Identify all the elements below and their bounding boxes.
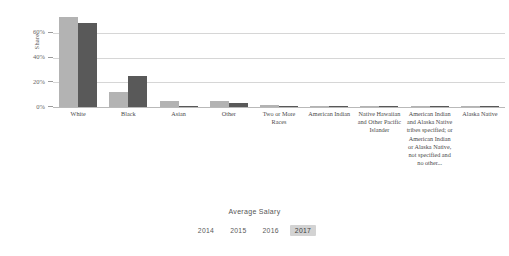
bar[interactable] — [329, 106, 348, 107]
bar-group-bars — [53, 8, 103, 107]
x-axis-category-label: American Indian — [307, 110, 351, 118]
legend: Average Salary 2014201520162017 — [0, 208, 509, 236]
bar[interactable] — [229, 103, 248, 107]
legend-item-2015[interactable]: 2015 — [225, 225, 251, 236]
bar[interactable] — [210, 101, 229, 107]
bar-group[interactable] — [53, 8, 103, 107]
bar-chart: Share 0%20%40%60% WhiteBlackAsianOtherTw… — [0, 0, 509, 256]
legend-item-2017[interactable]: 2017 — [290, 225, 316, 236]
bar[interactable] — [78, 23, 97, 107]
bar-group[interactable] — [254, 8, 304, 107]
bar-group-bars — [455, 8, 505, 107]
x-axis-line — [53, 107, 505, 108]
bar-group[interactable] — [204, 8, 254, 107]
y-axis-tick-label: 60% — [5, 28, 45, 35]
bar[interactable] — [430, 106, 449, 107]
bar-group-bars — [354, 8, 404, 107]
bar[interactable] — [461, 106, 480, 107]
x-axis-category-label: Alaska Native — [455, 110, 505, 118]
bar-group[interactable] — [304, 8, 354, 107]
bar-group[interactable] — [455, 8, 505, 107]
bar[interactable] — [310, 106, 329, 107]
bar-group-bars — [204, 8, 254, 107]
bar[interactable] — [260, 105, 279, 107]
bar[interactable] — [160, 101, 179, 107]
x-axis-labels: WhiteBlackAsianOtherTwo or More RacesAme… — [53, 110, 505, 205]
legend-item-2014[interactable]: 2014 — [193, 225, 219, 236]
bar[interactable] — [411, 106, 430, 107]
bar-group[interactable] — [153, 8, 203, 107]
y-axis-tick-label: 40% — [5, 53, 45, 60]
bar-group-bars — [103, 8, 153, 107]
x-axis-category-label: Native Hawaiian and Other Pacific Island… — [355, 110, 403, 135]
bar[interactable] — [279, 106, 298, 107]
bar[interactable] — [109, 92, 128, 107]
bar[interactable] — [360, 106, 379, 107]
x-axis-category-label: Other — [206, 110, 252, 118]
x-axis-category-label: White — [55, 110, 101, 118]
x-axis-category-label: Two or More Races — [256, 110, 302, 126]
legend-item-2016[interactable]: 2016 — [258, 225, 284, 236]
bar-group-bars — [405, 8, 455, 107]
bar-group[interactable] — [405, 8, 455, 107]
plot-area: Share 0%20%40%60% WhiteBlackAsianOtherTw… — [0, 0, 509, 205]
bar-group-bars — [153, 8, 203, 107]
y-axis-tick-label: 20% — [5, 78, 45, 85]
y-axis-tick-label: 0% — [5, 103, 45, 110]
legend-title: Average Salary — [0, 208, 509, 215]
bar[interactable] — [480, 106, 499, 107]
bars-container — [53, 8, 505, 107]
x-axis-category-label: American Indian and Alaska Native tribes… — [406, 110, 454, 167]
bar[interactable] — [59, 17, 78, 107]
bar-group-bars — [254, 8, 304, 107]
bar-group[interactable] — [354, 8, 404, 107]
bar[interactable] — [128, 76, 147, 107]
x-axis-category-label: Asian — [156, 110, 202, 118]
bar[interactable] — [379, 106, 398, 107]
bar[interactable] — [179, 106, 198, 107]
x-axis-category-label: Black — [105, 110, 151, 118]
bar-group-bars — [304, 8, 354, 107]
bar-group[interactable] — [103, 8, 153, 107]
legend-items: 2014201520162017 — [0, 225, 509, 236]
